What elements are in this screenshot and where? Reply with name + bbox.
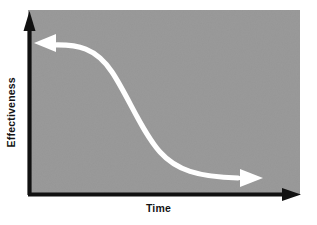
y-axis-label: Effectiveness <box>0 0 22 225</box>
y-axis-label-text: Effectiveness <box>6 77 17 147</box>
plot-area-grain <box>28 10 300 195</box>
x-axis-label: Time <box>0 203 317 214</box>
chart-canvas <box>0 0 317 225</box>
effectiveness-over-time-chart: Effectiveness Time <box>0 0 317 225</box>
